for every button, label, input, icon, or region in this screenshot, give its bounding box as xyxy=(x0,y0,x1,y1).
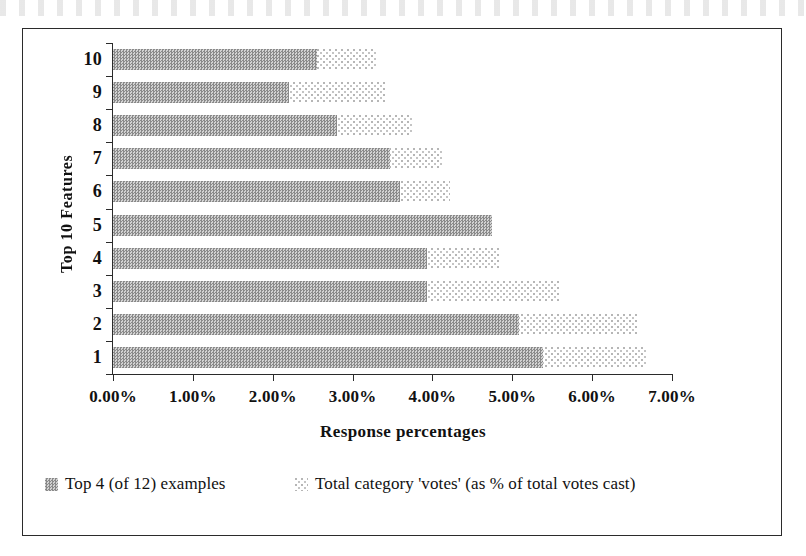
y-tick-label-10: 10 xyxy=(66,49,102,70)
bar-segment-top4[interactable] xyxy=(113,248,427,269)
bar-segment-top4[interactable] xyxy=(113,347,543,368)
y-tick-label-5: 5 xyxy=(66,215,102,236)
bar-row: 8 xyxy=(113,115,672,136)
x-tick-label-1.00%: 1.00% xyxy=(153,387,233,407)
bar-segment-top4[interactable] xyxy=(113,281,427,302)
y-tick-label-2: 2 xyxy=(66,314,102,335)
bar-segment-top4[interactable] xyxy=(113,49,317,70)
legend-entry-total-votes[interactable]: Total category 'votes' (as % of total vo… xyxy=(295,471,635,497)
x-axis-tick xyxy=(353,374,354,381)
x-tick-label-2.00%: 2.00% xyxy=(233,387,313,407)
x-tick-label-0.00%: 0.00% xyxy=(73,387,153,407)
y-tick-label-8: 8 xyxy=(66,115,102,136)
y-tick-label-1: 1 xyxy=(66,347,102,368)
y-axis-tick xyxy=(106,374,113,375)
legend-swatch-dark-icon xyxy=(45,478,58,491)
bar-segment-top4[interactable] xyxy=(113,314,519,335)
bar-segment-top4[interactable] xyxy=(113,115,337,136)
scan-artifact-top xyxy=(0,0,806,16)
x-axis-tick xyxy=(193,374,194,381)
x-axis-tick xyxy=(273,374,274,381)
y-tick-label-9: 9 xyxy=(66,82,102,103)
y-tick-label-4: 4 xyxy=(66,248,102,269)
x-tick-label-4.00%: 4.00% xyxy=(392,387,472,407)
x-tick-label-7.00%: 7.00% xyxy=(632,387,712,407)
y-tick-label-7: 7 xyxy=(66,148,102,169)
x-axis-tick xyxy=(113,374,114,381)
bar-row: 4 xyxy=(113,248,672,269)
bar-row: 6 xyxy=(113,181,672,202)
bar-row: 10 xyxy=(113,49,672,70)
x-axis-tick xyxy=(592,374,593,381)
bar-segment-top4[interactable] xyxy=(113,148,390,169)
bar-row: 7 xyxy=(113,148,672,169)
x-axis-tick xyxy=(432,374,433,381)
bar-row: 9 xyxy=(113,82,672,103)
x-axis-line xyxy=(112,374,673,375)
plot-area: 10987654321 0.00%1.00%2.00%3.00%4.00%5.0… xyxy=(113,43,672,374)
x-axis-tick xyxy=(512,374,513,381)
y-axis-tick xyxy=(106,175,113,176)
y-axis-tick xyxy=(106,43,113,44)
bar-segment-top4[interactable] xyxy=(113,181,400,202)
legend-entry-top4[interactable]: Top 4 (of 12) examples xyxy=(45,471,226,497)
bar-row: 5 xyxy=(113,215,672,236)
x-tick-label-5.00%: 5.00% xyxy=(472,387,552,407)
y-axis-tick xyxy=(106,142,113,143)
legend-swatch-light-icon xyxy=(295,478,308,491)
y-axis-tick xyxy=(106,242,113,243)
x-axis-tick xyxy=(672,374,673,381)
chart-legend: Top 4 (of 12) examples Total category 'v… xyxy=(23,471,783,505)
bar-row: 3 xyxy=(113,281,672,302)
y-axis-tick xyxy=(106,341,113,342)
bar-row: 1 xyxy=(113,347,672,368)
y-axis-tick xyxy=(106,109,113,110)
x-tick-label-6.00%: 6.00% xyxy=(552,387,632,407)
bar-segment-top4[interactable] xyxy=(113,215,492,236)
x-axis-title: Response percentages xyxy=(23,422,783,442)
bar-segment-top4[interactable] xyxy=(113,82,289,103)
chart-figure-frame: Top 10 Features 10987654321 0.00%1.00%2.… xyxy=(22,28,782,536)
y-tick-label-3: 3 xyxy=(66,281,102,302)
y-tick-label-6: 6 xyxy=(66,181,102,202)
x-tick-label-3.00%: 3.00% xyxy=(313,387,393,407)
y-axis-tick xyxy=(106,308,113,309)
y-axis-tick xyxy=(106,76,113,77)
y-axis-tick xyxy=(106,275,113,276)
y-axis-tick xyxy=(106,209,113,210)
bar-row: 2 xyxy=(113,314,672,335)
legend-label-total-votes: Total category 'votes' (as % of total vo… xyxy=(315,474,635,494)
legend-label-top4: Top 4 (of 12) examples xyxy=(65,474,226,494)
